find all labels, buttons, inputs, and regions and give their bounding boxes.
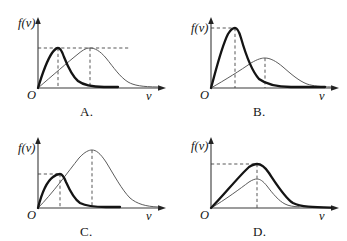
x-axis-arrow-d [331, 205, 339, 211]
option-panel-a: f(v) O v A. [0, 0, 173, 120]
option-label-c: C. [80, 224, 93, 239]
x-axis-label-c: v [146, 209, 152, 223]
option-label-a: A. [80, 104, 93, 119]
origin-label-b: O [200, 88, 209, 102]
x-axis-label-b: v [319, 89, 325, 103]
x-axis-label-a: v [146, 89, 152, 103]
option-panel-d: f(v) O v D. [173, 120, 346, 240]
plot-a: f(v) O v A. [0, 0, 173, 120]
x-axis-arrow-b [331, 85, 339, 91]
plot-d: f(v) O v D. [173, 120, 346, 240]
option-panel-c: f(v) O v C. [0, 120, 173, 240]
thin-curve-c [38, 150, 158, 208]
y-axis-label-c: f(v) [18, 141, 35, 155]
bold-curve-c [38, 174, 120, 208]
option-panel-b: f(v) O v B. [173, 0, 346, 120]
y-axis-label-d: f(v) [191, 139, 208, 153]
y-axis-arrow-b [208, 17, 214, 24]
y-axis-label-a: f(v) [18, 16, 35, 30]
origin-label-a: O [27, 88, 36, 102]
y-axis-arrow-d [208, 137, 214, 144]
thin-curve-a [38, 48, 158, 88]
x-axis-arrow-c [158, 205, 166, 211]
bold-curve-d [211, 164, 331, 208]
option-label-b: B. [253, 104, 266, 119]
x-axis-arrow-a [158, 85, 166, 91]
y-axis-label-b: f(v) [191, 21, 208, 35]
y-axis-arrow-a [35, 17, 41, 24]
origin-label-c: O [27, 208, 36, 222]
option-label-d: D. [253, 224, 266, 239]
origin-label-d: O [200, 208, 209, 222]
y-axis-arrow-c [35, 137, 41, 144]
figure-root: f(v) O v A. f(v) O v B. [0, 0, 347, 241]
plot-c: f(v) O v C. [0, 120, 173, 240]
x-axis-label-d: v [319, 209, 325, 223]
plot-b: f(v) O v B. [173, 0, 346, 120]
